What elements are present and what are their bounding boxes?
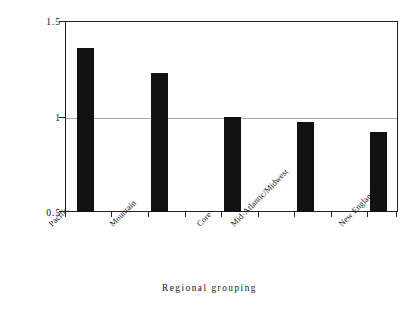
x-axis-category-labels: Pacific Mountain Core Mid-Atlantic/Midwe… [0, 0, 419, 312]
x-category-label-pacific: Pacific [47, 205, 70, 228]
x-category-label-mountain: Mountain [108, 198, 138, 228]
bar-chart-figure: Odds relative to the traditional core (=… [0, 0, 419, 312]
x-category-label-mid-atlantic-midwest: Mid-Atlantic/Midwest [229, 167, 290, 228]
x-category-label-new-england: New England [337, 189, 377, 229]
x-axis-title: Regional grouping [0, 283, 419, 293]
x-category-label-core: Core [195, 210, 213, 228]
